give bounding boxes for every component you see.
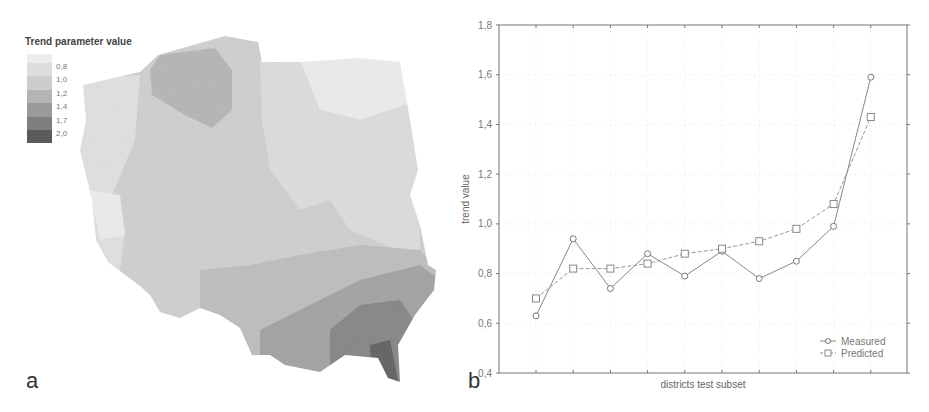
measured-point xyxy=(570,236,576,242)
predicted-point xyxy=(793,225,800,232)
legend-label: Measured xyxy=(841,336,885,347)
predicted-point xyxy=(867,113,874,120)
predicted-point xyxy=(830,200,837,207)
legend-circle-icon xyxy=(826,339,831,344)
predicted-point xyxy=(533,295,540,302)
predicted-point xyxy=(756,238,763,245)
map-regions xyxy=(60,30,460,390)
plot-frame xyxy=(499,25,907,373)
panel-letter-a: a xyxy=(26,368,38,394)
map-panel: Trend parameter value 0,81,01,21,41,72,0 xyxy=(0,0,460,412)
poland-map xyxy=(0,0,460,412)
measured-point xyxy=(645,251,651,257)
predicted-point xyxy=(570,265,577,272)
measured-point xyxy=(682,273,688,279)
legend-square-icon xyxy=(825,350,831,356)
line-chart: 0,40,60,81,01,21,41,61,8districts test s… xyxy=(460,0,929,412)
measured-point xyxy=(793,258,799,264)
y-tick-label: 0,8 xyxy=(478,268,492,279)
y-tick-label: 1,6 xyxy=(478,69,492,80)
y-tick-label: 0,6 xyxy=(478,318,492,329)
measured-point xyxy=(607,285,613,291)
measured-point xyxy=(831,223,837,229)
predicted-point xyxy=(607,265,614,272)
y-tick-label: 1,0 xyxy=(478,218,492,229)
y-tick-label: 1,4 xyxy=(478,119,492,130)
x-axis-label: districts test subset xyxy=(660,379,745,390)
predicted-point xyxy=(681,250,688,257)
line-chart-panel: 0,40,60,81,01,21,41,61,8districts test s… xyxy=(460,0,929,412)
measured-point xyxy=(756,276,762,282)
y-tick-label: 1,2 xyxy=(478,169,492,180)
predicted-point xyxy=(719,245,726,252)
series-line-predicted xyxy=(536,117,871,298)
series-line-measured xyxy=(536,77,871,316)
measured-point xyxy=(868,74,874,80)
panel-letter-b: b xyxy=(468,368,480,394)
measured-point xyxy=(533,313,539,319)
y-tick-label: 1,8 xyxy=(478,20,492,31)
y-axis-label: trend value xyxy=(460,174,471,224)
predicted-point xyxy=(644,260,651,267)
legend-label: Predicted xyxy=(841,348,883,359)
